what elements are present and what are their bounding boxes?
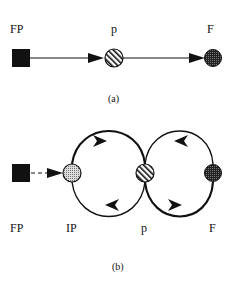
arc-p-to-f-bottom bbox=[145, 182, 213, 217]
arrowhead-icon bbox=[47, 168, 63, 178]
edge-p-to-f bbox=[123, 53, 205, 63]
label-f-a: F bbox=[207, 22, 214, 36]
panel-a: FP p F (a) bbox=[10, 22, 222, 105]
edge-fp-to-p bbox=[30, 53, 104, 63]
arrowhead-icon bbox=[93, 135, 107, 147]
arrowhead-icon bbox=[88, 53, 104, 63]
label-fp-b: FP bbox=[10, 221, 24, 235]
ip-light-node-icon bbox=[63, 164, 81, 182]
fp-square-node-icon bbox=[12, 164, 30, 182]
label-ip-b: IP bbox=[66, 221, 77, 235]
p-hatched-node-icon bbox=[105, 49, 123, 67]
caption-b: (b) bbox=[112, 261, 124, 273]
arc-ip-to-p-top bbox=[72, 131, 145, 164]
label-p-b: p bbox=[141, 221, 147, 235]
arc-f-to-p-top bbox=[145, 131, 213, 164]
f-dark-node-icon bbox=[205, 165, 222, 182]
arrowhead-icon bbox=[189, 53, 205, 63]
edge-fp-to-ip-dashed bbox=[31, 168, 63, 178]
arrowhead-icon bbox=[168, 199, 182, 211]
label-f-b: F bbox=[209, 221, 216, 235]
arrowhead-icon bbox=[105, 199, 119, 211]
diagram-canvas: FP p F (a) bbox=[0, 0, 235, 281]
f-dark-node-icon bbox=[205, 50, 222, 67]
p-hatched-node-icon bbox=[136, 164, 154, 182]
panel-b: FP IP p F (b) bbox=[10, 131, 222, 273]
fp-square-node-icon bbox=[12, 49, 30, 67]
label-p-a: p bbox=[111, 22, 117, 36]
label-fp-a: FP bbox=[10, 22, 24, 36]
arrowhead-icon bbox=[174, 135, 188, 147]
caption-a: (a) bbox=[108, 93, 119, 105]
arc-p-to-ip-bottom bbox=[72, 182, 145, 217]
